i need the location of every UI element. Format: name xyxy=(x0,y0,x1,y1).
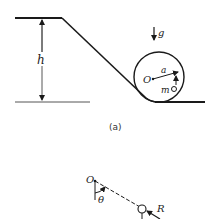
mass-label: m xyxy=(161,85,170,95)
gravity-label: g xyxy=(158,27,164,38)
diagram-canvas: h g O a m (a) O θ R xyxy=(0,0,213,219)
figure-a: h g O a m (a) xyxy=(15,18,205,132)
angle-label: θ xyxy=(98,194,104,205)
mass-particle xyxy=(172,87,177,92)
figure-a-caption: (a) xyxy=(109,122,122,132)
center-label: O xyxy=(143,74,151,85)
radius-label: a xyxy=(161,65,166,75)
height-label: h xyxy=(37,53,45,67)
pivot-label: O xyxy=(86,174,94,185)
bob-particle xyxy=(138,205,146,213)
angle-arc xyxy=(95,187,105,193)
figure-b: O θ R xyxy=(86,174,165,219)
incline-slope xyxy=(62,18,146,98)
reaction-label: R xyxy=(156,203,165,214)
